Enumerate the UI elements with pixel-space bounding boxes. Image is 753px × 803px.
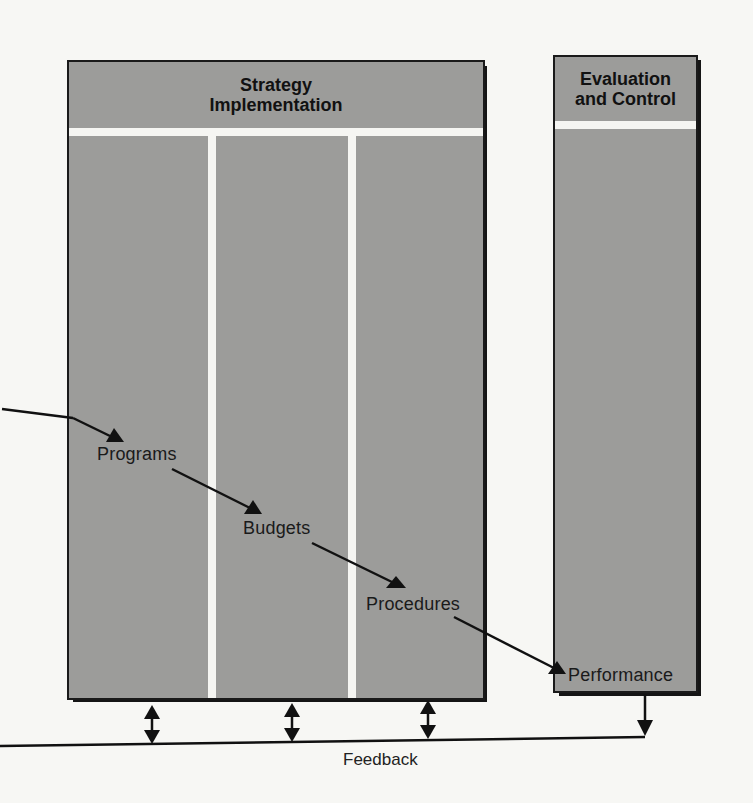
strategy-implementation-header: Strategy Implementation — [69, 62, 483, 128]
column-divider-1 — [208, 136, 216, 698]
feedback-line — [0, 737, 645, 746]
strategic-management-diagram: Strategy Implementation Evaluation and C… — [0, 0, 753, 803]
feedback-double-arrow-3 — [420, 700, 436, 739]
strategy-implementation-title-line2: Implementation — [209, 95, 342, 115]
evaluation-control-box: Evaluation and Control — [553, 55, 698, 693]
performance-label: Performance — [568, 665, 673, 686]
programs-label: Programs — [97, 444, 177, 465]
column-divider-2 — [348, 136, 356, 698]
procedures-label: Procedures — [366, 594, 460, 615]
evaluation-control-title-line1: Evaluation — [580, 69, 671, 89]
feedback-label: Feedback — [343, 750, 418, 770]
evaluation-header-divider — [555, 121, 696, 129]
feedback-double-arrow-2 — [284, 703, 300, 742]
arrow-performance-to-feedback — [637, 694, 653, 736]
evaluation-control-header: Evaluation and Control — [555, 57, 696, 121]
budgets-label: Budgets — [243, 518, 310, 539]
header-divider — [69, 128, 483, 136]
evaluation-control-title-line2: and Control — [575, 89, 676, 109]
feedback-double-arrow-1 — [144, 705, 160, 744]
strategy-implementation-title-line1: Strategy — [240, 75, 312, 95]
